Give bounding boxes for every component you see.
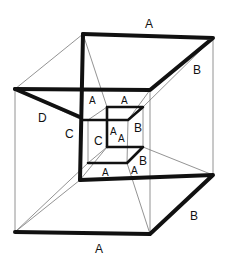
label-inner-a6: A xyxy=(131,165,138,176)
label-outer-right-top: B xyxy=(193,63,201,77)
hypercube-diagram: A B D C A B C A A A A A A B B xyxy=(0,0,228,270)
label-outer-left: D xyxy=(38,111,47,125)
label-inner-a1: A xyxy=(89,95,96,106)
label-inner-a3: A xyxy=(110,126,117,137)
label-inner-a5: A xyxy=(102,167,109,178)
label-outer-top: A xyxy=(145,17,153,31)
label-outer-bottom: A xyxy=(95,242,103,256)
label-outer-right-bottom: B xyxy=(190,209,198,223)
label-inner-a4: A xyxy=(118,133,125,144)
label-inner-b2: B xyxy=(139,154,147,168)
edge-labels: A B D C A B C A A A A A A B B xyxy=(38,17,201,256)
label-outer-c: C xyxy=(65,127,74,141)
label-inner-c: C xyxy=(94,134,103,148)
label-inner-a2: A xyxy=(121,95,128,106)
label-inner-b1: B xyxy=(134,121,142,135)
